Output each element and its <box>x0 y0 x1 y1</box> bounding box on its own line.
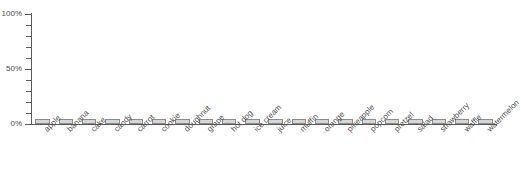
bar-slot <box>152 14 166 124</box>
bar-slot <box>478 14 492 124</box>
y-axis-tick-label: 100% <box>0 10 22 18</box>
bar-slot <box>432 14 446 124</box>
x-axis-labels: applebananacakecandycarrotcookiedoughnut… <box>31 125 497 173</box>
bar-slot <box>408 14 422 124</box>
bar-slot <box>129 14 143 124</box>
bar-slot <box>222 14 236 124</box>
bar-slot <box>338 14 352 124</box>
bar-slot <box>59 14 73 124</box>
bar-slot <box>175 14 189 124</box>
bar-slot <box>292 14 306 124</box>
y-axis-tick-label: 0% <box>0 120 22 128</box>
bar-slot <box>35 14 49 124</box>
bar-slot <box>315 14 329 124</box>
y-axis-tick-label: 50% <box>0 65 22 73</box>
bar-series <box>31 14 497 124</box>
bar-slot <box>105 14 119 124</box>
